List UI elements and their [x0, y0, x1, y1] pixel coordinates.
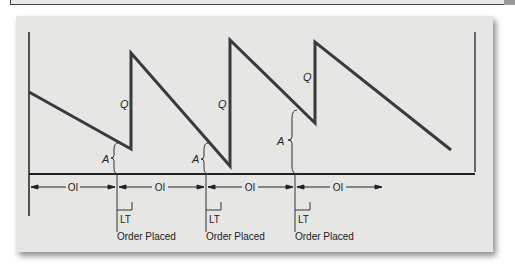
a-label-3: A [276, 135, 284, 147]
order-placed-label-3: Order Placed [295, 231, 354, 242]
a-label-1: A [101, 153, 109, 165]
a-label-2: A [191, 153, 199, 165]
oi-label-4: OI [333, 182, 344, 193]
oi-label-2: OI [155, 182, 166, 193]
a-brace-2 [201, 143, 208, 174]
lt-label-3: LT [298, 214, 309, 225]
a-brace-1 [111, 143, 118, 174]
a-brace-3 [288, 110, 297, 174]
order-placed-label-1: Order Placed [117, 231, 176, 242]
q-label-3: Q [303, 71, 312, 83]
lt-bracket-1 [117, 202, 132, 210]
oi-label-3: OI [245, 182, 256, 193]
lt-label-1: LT [120, 214, 131, 225]
lt-bracket-2 [206, 202, 221, 210]
inventory-sawtooth-diagram: Q Q Q A A A OI OI OI OI LT LT LT Order [0, 0, 515, 274]
order-placed-label-2: Order Placed [206, 231, 265, 242]
q-label-1: Q [120, 98, 129, 110]
lt-bracket-3 [295, 202, 310, 210]
inventory-level-line [29, 40, 451, 166]
lt-label-2: LT [209, 214, 220, 225]
oi-label-1: OI [68, 182, 79, 193]
q-label-2: Q [218, 98, 227, 110]
